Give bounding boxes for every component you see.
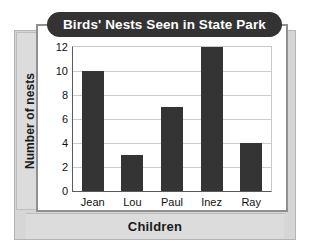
bars-group (73, 47, 271, 191)
y-tick-label: 4 (62, 137, 68, 149)
bar-inez (201, 47, 223, 191)
y-tick-label: 0 (62, 185, 68, 197)
plot-area: 024681012 JeanLouPaulInezRay (72, 46, 272, 192)
y-tick-label: 10 (56, 65, 68, 77)
y-tick-label: 8 (62, 89, 68, 101)
x-tick-label: Lou (123, 196, 141, 208)
y-tick-label: 2 (62, 161, 68, 173)
x-axis-title-band: Children (26, 213, 284, 239)
plot-wrapper: 024681012 JeanLouPaulInezRay (36, 24, 288, 212)
x-tick-label: Inez (201, 196, 222, 208)
x-axis-title: Children (128, 219, 182, 234)
bar-jean (82, 71, 104, 191)
bar-lou (121, 155, 143, 191)
y-tick-label: 12 (56, 41, 68, 53)
y-tick-label: 6 (62, 113, 68, 125)
bar-ray (240, 143, 262, 191)
chart-title: Birds' Nests Seen in State Park (63, 17, 266, 32)
x-tick-label: Paul (161, 196, 183, 208)
bar-paul (161, 107, 183, 191)
bar-chart-figure: Number of nests Children 024681012 JeanL… (0, 0, 311, 252)
chart-title-pill: Birds' Nests Seen in State Park (47, 12, 282, 37)
y-axis-title: Number of nests (23, 73, 37, 169)
x-tick-label: Jean (81, 196, 105, 208)
x-tick-label: Ray (241, 196, 261, 208)
